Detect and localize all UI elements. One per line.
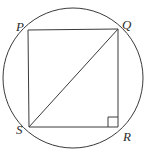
- vertex-label-p: P: [16, 20, 24, 33]
- diagonal-sq: [29, 29, 118, 127]
- right-angle-mark-r: [108, 117, 118, 127]
- vertex-label-q: Q: [122, 18, 131, 31]
- geometry-figure: P Q R S: [0, 0, 147, 156]
- vertex-label-r: R: [123, 130, 131, 143]
- vertex-label-s: S: [16, 123, 23, 136]
